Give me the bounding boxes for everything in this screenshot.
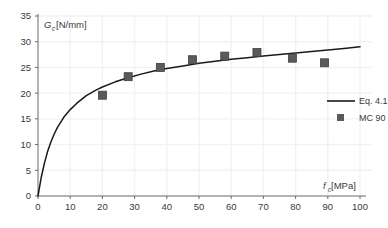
mc-90-data-point: [156, 63, 164, 71]
x-tick-label: 30: [129, 201, 140, 212]
y-tick-label: 30: [20, 36, 31, 47]
legend-square-swatch: [337, 114, 344, 121]
mc-90-data-point: [253, 49, 261, 57]
x-tick-label: 0: [35, 201, 40, 212]
x-tick-label: 50: [194, 201, 205, 212]
mc-90-data-point: [221, 52, 229, 60]
y-axis-title-unit: [N/mm]: [56, 19, 87, 30]
x-tick-label: 100: [352, 201, 368, 212]
y-tick-label: 35: [20, 10, 31, 21]
y-axis-title-symbol: G: [44, 19, 51, 30]
x-tick-label: 20: [97, 201, 108, 212]
y-tick-label: 10: [20, 139, 31, 150]
x-tick-label: 70: [258, 201, 269, 212]
fracture-energy-chart: 05101520253035 0102030405060708090100 G …: [0, 0, 388, 228]
x-tick-label: 10: [65, 201, 76, 212]
y-tick-label: 15: [20, 113, 31, 124]
y-tick-label: 0: [26, 190, 31, 201]
y-tick-label: 20: [20, 88, 31, 99]
x-tick-label: 80: [290, 201, 301, 212]
legend-label-mc90: MC 90: [359, 113, 386, 123]
y-tick-label: 5: [26, 165, 31, 176]
mc-90-data-point: [321, 59, 329, 67]
x-tick-label: 60: [226, 201, 237, 212]
mc-90-data-point: [98, 91, 106, 99]
chart-figure: 05101520253035 0102030405060708090100 G …: [0, 0, 388, 228]
mc-90-data-point: [189, 56, 197, 64]
x-tick-label: 90: [323, 201, 334, 212]
x-tick-label: 40: [162, 201, 173, 212]
mc-90-data-point: [288, 54, 296, 62]
legend-label-eq: Eq. 4.1: [359, 96, 388, 106]
chart-background: [0, 0, 388, 228]
y-tick-label: 25: [20, 62, 31, 73]
mc-90-data-point: [124, 73, 132, 81]
x-axis-title-unit: [MPa]: [331, 180, 356, 191]
